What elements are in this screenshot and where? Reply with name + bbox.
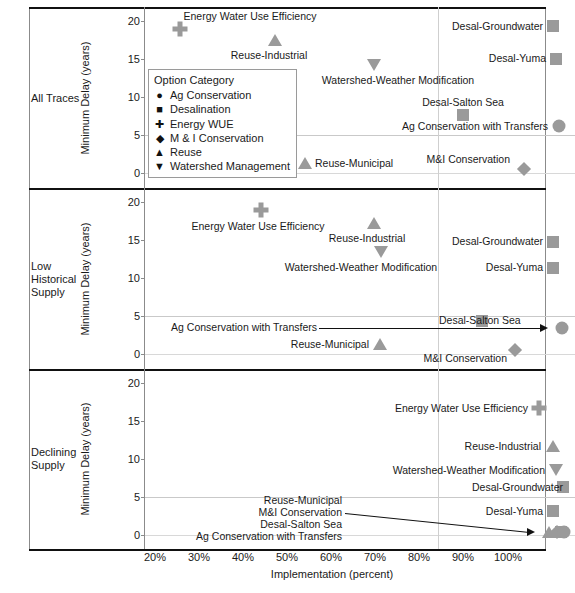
legend-label: Reuse	[170, 145, 202, 159]
annotation-arrow-head-p3	[527, 528, 535, 536]
legend-label: Watershed Management	[170, 159, 290, 173]
label-ag-transfers-p2: Ag Conservation with Transfers	[171, 321, 317, 333]
y-tick-label-0: 0	[134, 529, 140, 541]
label-desal-salton-p1: Desal-Salton Sea	[422, 96, 504, 108]
label-desal-yuma-p2: Desal-Yuma	[486, 261, 543, 273]
label-energy-wue-p2: Energy Water Use Efficiency	[191, 220, 324, 232]
y-tick-label-15: 15	[128, 415, 140, 427]
label-reuse-industrial-p3: Reuse-Industrial	[465, 440, 541, 452]
marker-ag-transfers-p2	[556, 322, 569, 335]
y-axis-title-panel3: Minimum Delay (years)	[79, 402, 91, 515]
legend-item-energy-wue[interactable]: ✚ Energy WUE	[154, 117, 290, 131]
legend-item-desalination[interactable]: ■ Desalination	[154, 102, 290, 116]
legend-item-mi-conservation[interactable]: ◆ M & I Conservation	[154, 131, 290, 145]
chart-figure: All Traces Minimum Delay (years) 20 15 1…	[0, 0, 575, 593]
legend-label: Ag Conservation	[170, 88, 251, 102]
marker-reuse-industrial-p2	[367, 217, 381, 229]
x-axis-title: Implementation (percent)	[271, 568, 393, 580]
y-tick-label-10: 10	[128, 272, 140, 284]
marker-desal-yuma-p1	[550, 53, 562, 65]
panel-low-historical-supply: Low Historical Supply Minimum Delay (yea…	[29, 188, 546, 369]
label-watershed-p2: Watershed-Weather Modification	[285, 261, 437, 273]
x-tick-label: 30%	[188, 551, 210, 563]
triangle-down-icon: ▼	[154, 159, 165, 173]
marker-desal-yuma-p2	[547, 262, 559, 274]
label-reuse-industrial-p1: Reuse-Industrial	[231, 49, 307, 61]
y-tick-label-5: 5	[134, 491, 140, 503]
marker-mi-conservation-p2	[508, 343, 522, 357]
label-desal-groundwater-p3: Desal-Groundwater	[472, 481, 563, 493]
label-desal-salton-p2: Desal-Salton Sea	[439, 314, 521, 326]
marker-desal-groundwater-p1	[547, 20, 559, 32]
y-tick-label-5: 5	[134, 310, 140, 322]
cluster-line: Desal-Salton Sea	[260, 518, 342, 530]
marker-watershed-p1	[367, 59, 381, 71]
annotation-arrow-line-p2	[319, 328, 540, 329]
marker-desal-groundwater-p2	[547, 236, 559, 248]
label-reuse-industrial-p2: Reuse-Industrial	[329, 232, 405, 244]
label-cluster-p3: Reuse-MunicipalM&I ConservationDesal-Sal…	[259, 494, 342, 530]
legend-item-ag-conservation[interactable]: ● Ag Conservation	[154, 88, 290, 102]
marker-ag-transfers-p3	[558, 526, 571, 539]
x-tick-label: 50%	[276, 551, 298, 563]
x-tick-label: 90%	[452, 551, 474, 563]
marker-energy-wue-p3	[532, 401, 547, 416]
label-watershed-p3: Watershed-Weather Modification	[393, 464, 545, 476]
label-watershed-p1: Watershed-Weather Modification	[322, 74, 474, 86]
legend-label: Desalination	[170, 102, 231, 116]
label-ag-transfers-p1: Ag Conservation with Transfers	[402, 120, 548, 132]
marker-watershed-p3	[549, 464, 563, 476]
marker-mi-conservation-p1	[517, 162, 531, 176]
label-reuse-municipal-p2: Reuse-Municipal	[291, 338, 369, 350]
y-tick-label-0: 0	[134, 167, 140, 179]
panel-declining-supply: Declining Supply Minimum Delay (years) 2…	[29, 369, 546, 549]
square-icon: ■	[154, 102, 165, 116]
marker-reuse-industrial-p3	[546, 440, 560, 452]
x-tick-label: 80%	[408, 551, 430, 563]
y-tick-label-20: 20	[128, 196, 140, 208]
x-tick-label: 40%	[232, 551, 254, 563]
y-axis-title-panel2: Minimum Delay (years)	[79, 222, 91, 335]
marker-desal-yuma-p3	[547, 505, 559, 517]
x-tick-label: 20%	[144, 551, 166, 563]
label-desal-groundwater-p2: Desal-Groundwater	[452, 235, 543, 247]
label-desal-groundwater-p1: Desal-Groundwater	[452, 20, 543, 32]
diamond-icon: ◆	[154, 131, 165, 145]
label-mi-conservation-p2: M&I Conservation	[424, 352, 507, 364]
legend-title: Option Category	[154, 73, 290, 87]
x-tick-label: 70%	[364, 551, 386, 563]
label-mi-conservation-p1: M&I Conservation	[427, 153, 510, 165]
y-tick-label-10: 10	[128, 453, 140, 465]
y-tick-label-10: 10	[128, 91, 140, 103]
marker-reuse-municipal-p2	[373, 338, 387, 350]
marker-reuse-municipal-p1	[298, 157, 312, 169]
plot-area-panel3: 20 15 10 5 0 Energy Water Use Efficiency…	[144, 369, 575, 549]
x-tick-label: 100%	[494, 551, 522, 563]
y-tick-label-0: 0	[134, 348, 140, 360]
marker-energy-wue-p1	[173, 22, 188, 37]
y-tick-label-15: 15	[128, 53, 140, 65]
plus-icon: ✚	[154, 117, 165, 131]
label-energy-wue-p1: Energy Water Use Efficiency	[183, 10, 316, 22]
marker-ag-transfers-p1	[553, 120, 566, 133]
y-tick-label-5: 5	[134, 129, 140, 141]
panel-all-traces: All Traces Minimum Delay (years) 20 15 1…	[29, 7, 546, 188]
label-ag-transfers-p3: Ag Conservation with Transfers	[196, 530, 342, 542]
label-reuse-municipal-p1: Reuse-Municipal	[315, 157, 393, 169]
circle-icon: ●	[154, 88, 165, 102]
legend-item-watershed-management[interactable]: ▼ Watershed Management	[154, 159, 290, 173]
plot-area-panel2: 20 15 10 5 0 Energy Water Use Efficiency…	[144, 188, 575, 369]
y-tick-label-20: 20	[128, 377, 140, 389]
cluster-line: Reuse-Municipal	[264, 494, 342, 506]
marker-watershed-p2	[374, 246, 388, 258]
annotation-arrow-head-p2	[540, 324, 548, 332]
y-axis-title-panel1: Minimum Delay (years)	[79, 41, 91, 154]
label-energy-wue-p3: Energy Water Use Efficiency	[395, 402, 528, 414]
legend-item-reuse[interactable]: ▲ Reuse	[154, 145, 290, 159]
cluster-line: M&I Conservation	[259, 506, 342, 518]
legend-label: Energy WUE	[170, 117, 234, 131]
legend-option-category[interactable]: Option Category ● Ag Conservation ■ Desa…	[148, 69, 297, 178]
x-tick-label: 60%	[320, 551, 342, 563]
plot-area-panel1: 20 15 10 5 0 Energy Water Use Efficiency…	[144, 7, 575, 188]
legend-list: ● Ag Conservation ■ Desalination ✚ Energ…	[154, 88, 290, 173]
